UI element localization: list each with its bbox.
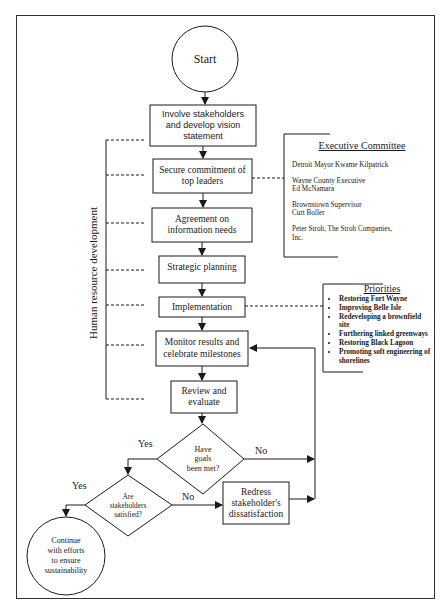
exec-member-line: Ed McNamara (292, 185, 334, 193)
exec-member-line: Inc. (292, 234, 303, 242)
involve-line-3: statement (183, 131, 223, 142)
exec-member: Brownstown SupervisorCurt Boller (292, 201, 432, 218)
monitor-line-1: Monitor results and (165, 337, 239, 349)
executive-committee-title: Executive Committee (292, 140, 432, 151)
secure-line-1: Secure commitment of (159, 165, 246, 177)
priority-item: Improving Belle Isle (339, 304, 431, 313)
exec-member-line: Detroit Mayor Kwame Kilpatrick (292, 161, 388, 169)
goals-no-label: No (255, 445, 267, 456)
continue-line-3: to ensure (51, 556, 80, 566)
agreement-step: Agreement on information needs (152, 208, 252, 242)
start-label: Start (194, 53, 217, 65)
satisfied-line-2: stakeholders (110, 501, 146, 510)
priorities-panel: Priorities Restoring Fort Wayne Improvin… (325, 283, 431, 365)
satisfied-no-label: No (182, 491, 194, 502)
agreement-line-2: information needs (168, 225, 237, 237)
exec-member-line: Brownstown Supervisor (292, 201, 362, 209)
redress-line-2: stakeholder's (231, 498, 280, 509)
strategic-label: Strategic planning (167, 261, 236, 273)
priority-item: Promoting soft engineering of shorelines (339, 348, 431, 366)
secure-line-2: top leaders (182, 176, 223, 188)
exec-member: Wayne County ExecutiveEd McNamara (292, 177, 432, 194)
implementation-label: Implementation (172, 301, 232, 313)
satisfied-line-1: Are (123, 492, 134, 501)
involve-stakeholders-step: Involve stakeholders and develop vision … (150, 105, 256, 146)
goals-line-2: goals (195, 454, 212, 464)
stakeholders-satisfied-decision: Are stakeholders satisfied? (98, 489, 158, 521)
monitor-line-2: celebrate milestones (163, 349, 240, 361)
goals-yes-label: Yes (138, 438, 153, 449)
goals-line-3: been met? (187, 464, 220, 474)
redress-line-1: Redress (241, 487, 271, 498)
executive-committee-panel: Executive Committee Detroit Mayor Kwame … (292, 140, 432, 249)
priority-item: Furthering linked greenways (339, 330, 431, 339)
strategic-planning-step: Strategic planning (159, 256, 245, 278)
redress-step: Redress stakeholder's dissatisfaction (223, 482, 289, 524)
exec-member-line: Curt Boller (292, 209, 325, 217)
goals-line-1: Have (195, 445, 212, 455)
involve-line-2: and develop vision (166, 120, 241, 131)
priority-item: Restoring Black Lagoon (339, 339, 431, 348)
priorities-list: Restoring Fort Wayne Improving Belle Isl… (325, 295, 431, 365)
exec-member-line: Wayne County Executive (292, 177, 365, 185)
continue-terminal: Continue with efforts to ensure sustaina… (28, 530, 104, 582)
exec-member-line: Peter Stroh, The Stroh Companies, (292, 225, 392, 233)
secure-commitment-step: Secure commitment of top leaders (153, 159, 252, 193)
priority-item: Redeveloping a brownfield site (339, 313, 431, 331)
priorities-title: Priorities (325, 283, 431, 294)
monitor-step: Monitor results and celebrate milestones (156, 331, 248, 366)
review-line-1: Review and (181, 386, 226, 398)
involve-line-1: Involve stakeholders (162, 109, 244, 120)
review-step: Review and evaluate (171, 381, 237, 413)
start-node: Start (172, 44, 238, 74)
goals-met-decision: Have goals been met? (173, 443, 233, 475)
satisfied-yes-label: Yes (72, 480, 87, 491)
satisfied-line-3: satisfied? (114, 510, 142, 519)
human-resource-development-label: Human resource development (87, 203, 101, 343)
implementation-step: Implementation (159, 297, 245, 317)
exec-member: Detroit Mayor Kwame Kilpatrick (292, 161, 432, 170)
exec-member: Peter Stroh, The Stroh Companies,Inc. (292, 225, 432, 242)
redress-line-3: dissatisfaction (229, 509, 283, 520)
review-line-2: evaluate (188, 397, 220, 409)
priority-item: Restoring Fort Wayne (339, 295, 431, 304)
agreement-line-1: Agreement on (175, 214, 229, 226)
continue-line-4: sustainability (45, 566, 88, 576)
continue-line-1: Continue (51, 536, 80, 546)
continue-line-2: with efforts (48, 546, 85, 556)
